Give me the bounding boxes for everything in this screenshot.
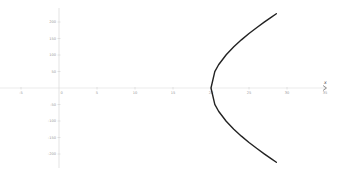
x-tick-label: 25 — [247, 91, 252, 95]
x-tick-label: 10 — [133, 91, 138, 95]
x-tick-label: 15 — [171, 91, 176, 95]
y-tick-label: 150 — [49, 37, 57, 41]
y-tick-label: -200 — [48, 152, 57, 156]
x-tick-label: -5 — [19, 91, 23, 95]
x-tick-label: 35 — [323, 91, 328, 95]
x-axis-label: x — [323, 80, 327, 85]
y-tick-label: 50 — [51, 70, 56, 74]
x-tick-label: 30 — [285, 91, 290, 95]
origin-label: 0 — [61, 91, 64, 95]
y-tick-label: -50 — [50, 103, 57, 107]
x-tick-label: 5 — [96, 91, 98, 95]
chart-canvas: -551015202530350 20015010050-50-100-150-… — [0, 0, 343, 171]
y-tick-label: 100 — [49, 53, 57, 57]
y-tick-label: -150 — [48, 136, 57, 140]
y-tick-label: -100 — [48, 119, 57, 123]
y-tick-label: 200 — [49, 20, 57, 24]
